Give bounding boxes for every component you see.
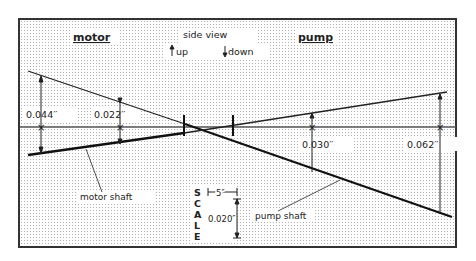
- svg-text:E: E: [194, 231, 201, 242]
- scale-vertical: 0.020″: [208, 214, 236, 224]
- svg-text:C: C: [194, 198, 201, 209]
- pump-title: pump: [298, 31, 333, 44]
- svg-text:×: ×: [37, 122, 45, 133]
- view-label: side view: [183, 29, 228, 40]
- dim-label-motor-inner: 0.022′′: [94, 109, 126, 120]
- legend-down: down: [228, 46, 254, 57]
- svg-text:A: A: [194, 209, 202, 220]
- dim-label-pump-inner: 0.030′′: [302, 139, 334, 150]
- scale-horizontal: 5″: [216, 188, 225, 198]
- callout-motor-shaft: motor shaft: [80, 192, 133, 202]
- svg-text:×: ×: [436, 122, 444, 133]
- motor-title: motor: [73, 31, 111, 44]
- dim-label-pump-outer: 0.062′′: [407, 139, 439, 150]
- shaft-alignment-diagram: × × × × motor side: [0, 0, 476, 261]
- dim-label-motor-outer: 0.044′′: [26, 109, 58, 120]
- callout-pump-shaft: pump shaft: [255, 211, 307, 221]
- svg-text:L: L: [194, 220, 200, 231]
- svg-text:×: ×: [308, 122, 316, 133]
- svg-text:×: ×: [116, 122, 124, 133]
- svg-text:S: S: [194, 187, 201, 198]
- legend-up: up: [176, 46, 188, 57]
